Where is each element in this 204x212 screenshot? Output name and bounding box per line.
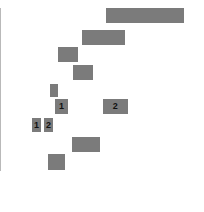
bar-6: 1 xyxy=(55,99,69,114)
cost-of-water-chart: 1 2 1 2 xyxy=(0,0,204,212)
bar-1 xyxy=(106,8,184,23)
bar-3 xyxy=(58,47,77,62)
bar-7: 2 xyxy=(103,99,128,114)
plot-area: 1 2 1 2 xyxy=(0,0,204,172)
gridline-25 xyxy=(0,8,1,171)
bar-2 xyxy=(82,30,125,45)
bar-8: 1 xyxy=(32,118,41,132)
bar-5 xyxy=(50,84,58,97)
bar-11 xyxy=(48,154,65,170)
bar-4 xyxy=(73,65,93,80)
bar-9: 2 xyxy=(44,118,53,132)
bar-10 xyxy=(72,137,101,152)
